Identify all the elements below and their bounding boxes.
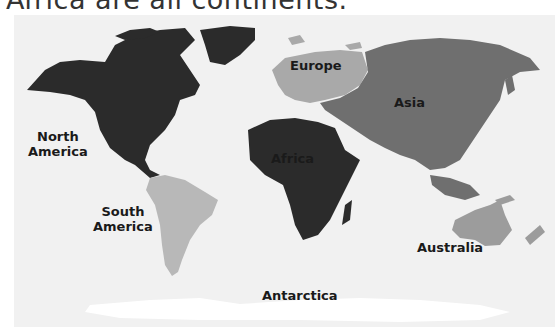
africa-shape (248, 118, 360, 240)
australia-shape (452, 195, 545, 246)
label-europe: Europe (290, 58, 342, 73)
label-australia: Australia (417, 240, 483, 255)
world-map-shapes (14, 15, 555, 327)
label-north-america: North America (28, 129, 88, 159)
label-antarctica: Antarctica (262, 288, 338, 303)
label-asia: Asia (394, 95, 425, 110)
south-america-shape (146, 175, 218, 276)
header-text: Africa are all continents. (6, 0, 348, 15)
label-africa: Africa (271, 151, 314, 166)
label-south-america: South America (93, 204, 153, 234)
world-map: North America South America Europe Asia … (14, 15, 555, 327)
